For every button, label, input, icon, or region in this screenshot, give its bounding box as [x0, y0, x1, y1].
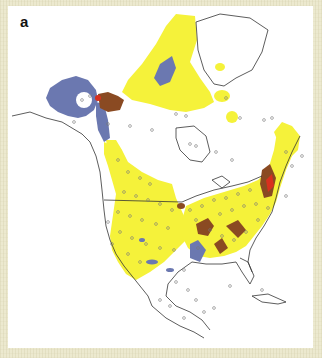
north-america-map	[0, 0, 322, 358]
panel-label: a	[20, 13, 28, 30]
yellow-range-layer	[104, 14, 300, 280]
